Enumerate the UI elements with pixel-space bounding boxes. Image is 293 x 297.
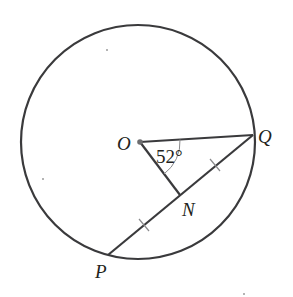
speck: [243, 293, 245, 295]
label-n: N: [181, 199, 196, 220]
circle-geometry-diagram: O Q N P 52°: [0, 0, 293, 297]
speck: [106, 49, 108, 51]
speck: [42, 178, 44, 180]
segment-oq: [140, 135, 253, 142]
label-o: O: [117, 133, 131, 154]
label-q: Q: [258, 126, 272, 147]
label-p: P: [94, 261, 107, 282]
centre-point-o: [137, 139, 143, 145]
angle-label: 52°: [156, 146, 183, 167]
